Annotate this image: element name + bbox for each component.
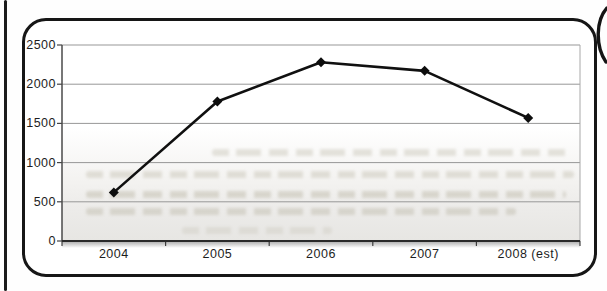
y-axis-label: 2500	[26, 37, 56, 53]
y-axis-label: 500	[34, 194, 56, 210]
data-point-marker	[420, 66, 430, 76]
line-chart	[62, 45, 580, 241]
document-left-rule	[4, 0, 7, 291]
x-axis-label: 2008 (est)	[483, 247, 573, 261]
y-axis-label: 0	[49, 233, 56, 249]
trend-line	[114, 62, 528, 192]
x-axis-label: 2004	[69, 247, 159, 261]
x-axis-label: 2007	[380, 247, 470, 261]
y-axis-labels: 05001000150020002500	[10, 45, 56, 241]
line-chart-canvas	[62, 45, 580, 241]
x-axis-label: 2005	[172, 247, 262, 261]
x-axis-label: 2006	[276, 247, 366, 261]
y-axis-label: 1000	[26, 155, 56, 171]
y-axis-label: 2000	[26, 76, 56, 92]
y-axis-label: 1500	[26, 115, 56, 131]
x-axis-labels: 20042005200620072008 (est)	[62, 247, 580, 263]
handwritten-parenthesis-icon	[593, 6, 607, 66]
data-point-marker	[316, 57, 326, 67]
data-point-marker	[523, 113, 533, 123]
scanned-document-page: 05001000150020002500 2004200520062007200…	[0, 0, 607, 291]
